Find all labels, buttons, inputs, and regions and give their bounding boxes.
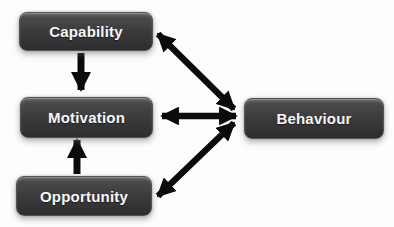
node-motivation: Motivation	[20, 97, 153, 138]
node-capability: Capability	[19, 12, 153, 51]
arrow-opportunity-behaviour-bidirectional	[158, 123, 234, 196]
node-behaviour: Behaviour	[244, 98, 384, 139]
capability-label: Capability	[49, 23, 123, 40]
opportunity-label: Opportunity	[40, 188, 128, 205]
behaviour-label: Behaviour	[276, 110, 351, 127]
comb-model-diagram: Capability Motivation Opportunity Behavi…	[0, 0, 394, 227]
arrow-capability-behaviour-bidirectional	[158, 34, 234, 109]
motivation-label: Motivation	[48, 109, 125, 126]
node-opportunity: Opportunity	[16, 176, 152, 216]
